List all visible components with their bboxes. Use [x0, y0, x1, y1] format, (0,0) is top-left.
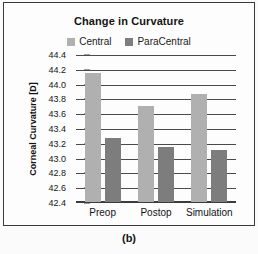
plot-wrapper: Corneal Curvature [D] 44.444.244.043.843… — [24, 55, 242, 225]
legend-swatch-icon — [67, 38, 75, 46]
bar-preop-paracentral — [105, 138, 121, 202]
bar-simulation-paracentral — [211, 150, 227, 202]
y-axis-tick-label: 42.8 — [48, 168, 66, 178]
legend-item-label: ParaCentral — [137, 36, 190, 47]
y-axis-tick-label: 44.0 — [48, 80, 66, 90]
bar-postop-paracentral — [158, 147, 174, 203]
x-axis-tick-label: Preop — [89, 207, 116, 218]
figure-caption: (b) — [0, 232, 258, 244]
y-axis-tick-label: 42.6 — [48, 183, 66, 193]
y-axis-ticks: 44.444.244.043.843.643.443.243.042.842.6… — [38, 55, 68, 203]
plot-area — [76, 55, 236, 203]
y-axis-tick-label: 43.4 — [48, 124, 66, 134]
y-axis-tick-label: 44.4 — [48, 50, 66, 60]
x-axis-tick-label: Postop — [140, 207, 171, 218]
y-axis-tick-label: 43.8 — [48, 94, 66, 104]
gridline — [76, 55, 236, 56]
y-axis-tick-label: 44.2 — [48, 65, 66, 75]
legend-item-label: Central — [79, 36, 111, 47]
y-axis-tick-label: 43.2 — [48, 139, 66, 149]
bar-postop-central — [138, 106, 154, 202]
gridline — [76, 70, 236, 71]
chart-title: Change in Curvature — [4, 15, 254, 27]
x-axis-labels: PreopPostopSimulation — [76, 207, 236, 223]
legend-item-paracentral[interactable]: ParaCentral — [125, 36, 190, 47]
legend-item-central[interactable]: Central — [67, 36, 111, 47]
y-axis-tick-label: 43.0 — [48, 154, 66, 164]
chart-legend: CentralParaCentral — [4, 36, 254, 47]
x-axis-tick-label: Simulation — [186, 207, 233, 218]
bar-preop-central — [85, 73, 101, 203]
y-axis-tick-label: 42.4 — [48, 198, 66, 208]
figure-panel: Change in Curvature CentralParaCentral C… — [0, 0, 258, 254]
chart-frame: Change in Curvature CentralParaCentral C… — [3, 2, 255, 226]
bar-simulation-central — [191, 94, 207, 202]
legend-swatch-icon — [125, 38, 133, 46]
y-axis-title-label: Corneal Curvature [D] — [28, 82, 38, 176]
y-axis-tick-label: 43.6 — [48, 109, 66, 119]
